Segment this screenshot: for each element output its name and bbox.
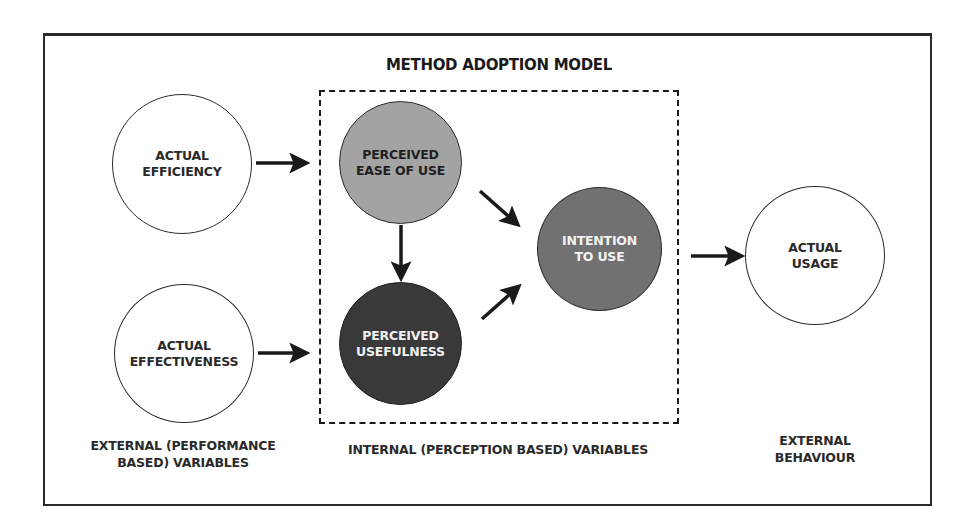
node-label: PERCEIVED EASE OF USE [356,147,445,179]
node-label: INTENTION TO USE [562,233,637,265]
caption-external-performance-variables: EXTERNAL (PERFORMANCE BASED) VARIABLES [68,437,298,471]
arrow-ease-of-use-to-intention [480,191,516,223]
node-actual-efficiency: ACTUAL EFFICIENCY [112,94,252,234]
node-intention-to-use: INTENTION TO USE [537,187,662,311]
node-label: ACTUAL EFFICIENCY [142,148,221,180]
node-label: ACTUAL EFFECTIVENESS [130,338,239,370]
node-label: PERCEIVED USEFULNESS [356,328,445,360]
node-perceived-ease-of-use: PERCEIVED EASE OF USE [339,101,462,224]
node-actual-usage: ACTUAL USAGE [745,186,885,325]
node-label: ACTUAL USAGE [788,240,842,272]
node-actual-effectiveness: ACTUAL EFFECTIVENESS [114,284,254,423]
node-perceived-usefulness: PERCEIVED USEFULNESS [339,282,462,405]
caption-external-behaviour: EXTERNAL BEHAVIOUR [755,432,875,466]
caption-internal-perception-variables: INTERNAL (PERCEPTION BASED) VARIABLES [318,441,678,458]
arrow-usefulness-to-intention [482,288,517,319]
